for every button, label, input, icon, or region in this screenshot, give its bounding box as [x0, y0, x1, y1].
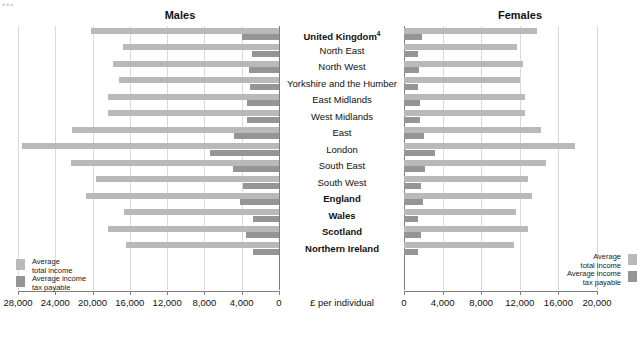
- bar-total-income: [71, 160, 279, 166]
- axis-tick-label: 4,000: [431, 297, 455, 308]
- bar-income-tax: [210, 150, 279, 156]
- bar-income-tax: [243, 183, 279, 189]
- axis-tick-label: 16,000: [544, 297, 573, 308]
- category-label: Yorkshire and the Humber: [282, 76, 402, 93]
- bar-total-income: [22, 143, 279, 149]
- bar-total-income: [404, 94, 525, 100]
- bar-income-tax: [404, 67, 419, 73]
- legend-item-total-income: Average total income: [16, 258, 126, 275]
- bar-total-income: [404, 28, 537, 34]
- category-label: East: [282, 125, 402, 142]
- gridline: [597, 26, 598, 290]
- bar-total-income: [404, 226, 528, 232]
- bar-income-tax: [234, 133, 279, 139]
- x-axis-females: [404, 291, 598, 292]
- category-label-column: United Kingdom4North EastNorth WestYorks…: [282, 26, 402, 290]
- bar-income-tax: [233, 166, 279, 172]
- bar-total-income: [404, 193, 532, 199]
- bar-income-tax: [404, 199, 423, 205]
- plot-area-females: [404, 26, 597, 290]
- legend-item-income-tax: Average income tax payable: [16, 275, 126, 292]
- bar-income-tax: [253, 216, 279, 222]
- legend-males: Average total income Average income tax …: [16, 258, 126, 292]
- legend-females: Average total income Average income tax …: [525, 253, 637, 287]
- axis-tick: [204, 291, 205, 295]
- bar-row: [404, 224, 597, 241]
- axis-tick-label: 28,000: [3, 297, 32, 308]
- axis-tick-label: 16,000: [115, 297, 144, 308]
- bar-total-income: [108, 226, 280, 232]
- axis-tick: [93, 291, 94, 295]
- bar-total-income: [96, 176, 279, 182]
- bar-total-income: [404, 61, 523, 67]
- axis-tick: [18, 291, 19, 295]
- axis-tick-label: 24,000: [41, 297, 70, 308]
- bar-income-tax: [404, 51, 418, 57]
- axis-tick-label: 4,000: [230, 297, 254, 308]
- category-label: South East: [282, 158, 402, 175]
- category-label: Wales: [282, 208, 402, 225]
- bar-total-income: [113, 61, 279, 67]
- category-label: East Midlands: [282, 92, 402, 109]
- bar-income-tax: [242, 34, 279, 40]
- bar-total-income: [404, 242, 514, 248]
- bar-income-tax: [252, 51, 279, 57]
- axis-tick-label: 12,000: [505, 297, 534, 308]
- bar-row: [18, 241, 279, 258]
- bar-total-income: [126, 242, 279, 248]
- bar-total-income: [404, 176, 528, 182]
- bar-income-tax: [404, 232, 421, 238]
- legend-swatch-income-tax: [628, 271, 637, 282]
- bar-row: [404, 92, 597, 109]
- bar-row: [404, 175, 597, 192]
- bar-total-income: [123, 44, 279, 50]
- bar-total-income: [72, 127, 279, 133]
- bar-income-tax: [247, 100, 279, 106]
- axis-tick-label: 12,000: [153, 297, 182, 308]
- bar-row: [18, 59, 279, 76]
- category-label: Scotland: [282, 224, 402, 241]
- legend-item-income-tax: Average income tax payable: [525, 270, 637, 287]
- bar-row: [18, 43, 279, 60]
- category-label: London: [282, 142, 402, 159]
- bar-income-tax: [404, 34, 422, 40]
- bar-row: [18, 175, 279, 192]
- axis-tick: [167, 291, 168, 295]
- bar-row: [18, 224, 279, 241]
- legend-label-income-tax: Average income tax payable: [567, 270, 621, 287]
- bar-row: [18, 191, 279, 208]
- bar-row: [18, 76, 279, 93]
- legend-item-total-income: Average total income: [525, 253, 637, 270]
- bar-row: [18, 208, 279, 225]
- bar-income-tax: [404, 216, 418, 222]
- bar-row: [404, 43, 597, 60]
- bar-total-income: [91, 28, 279, 34]
- bar-row: [18, 142, 279, 159]
- bar-income-tax: [404, 117, 420, 123]
- panel-title-females: Females: [460, 9, 580, 21]
- bar-row: [404, 59, 597, 76]
- axis-tick-label: 0: [276, 297, 281, 308]
- footnote-marker: 4: [377, 30, 381, 37]
- axis-tick: [520, 291, 521, 295]
- bar-row: [404, 109, 597, 126]
- bar-row: [18, 92, 279, 109]
- bar-total-income: [404, 143, 575, 149]
- bar-row: [18, 26, 279, 43]
- legend-label-total-income: Average total income: [581, 253, 621, 270]
- axis-tick-label: 8,000: [469, 297, 493, 308]
- axis-tick: [279, 291, 280, 295]
- x-axis-label: £ per individual: [282, 297, 402, 308]
- bar-total-income: [404, 77, 520, 83]
- legend-swatch-total-income: [628, 254, 637, 265]
- bar-income-tax: [253, 249, 279, 255]
- bar-row: [404, 26, 597, 43]
- bar-row: [404, 142, 597, 159]
- bar-income-tax: [246, 232, 279, 238]
- category-label: South West: [282, 175, 402, 192]
- axis-tick: [597, 291, 598, 295]
- bar-total-income: [119, 77, 279, 83]
- bar-row: [18, 158, 279, 175]
- corner-marks: •••: [2, 0, 14, 10]
- bar-income-tax: [404, 133, 424, 139]
